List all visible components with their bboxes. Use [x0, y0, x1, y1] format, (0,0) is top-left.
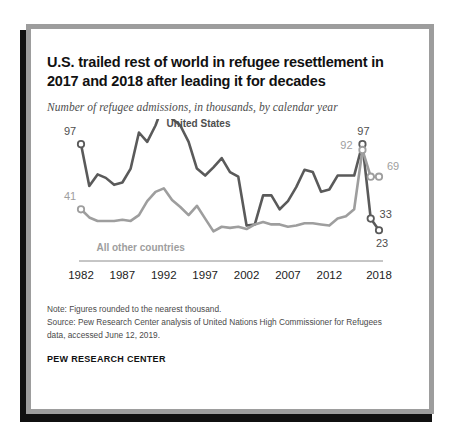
data-point-marker — [359, 146, 365, 152]
series-annotation-all-other-countries: All other countries — [96, 242, 185, 253]
footnote-note: Note: Figures rounded to the nearest tho… — [47, 303, 413, 316]
x-tick-label: 2002 — [234, 269, 260, 281]
data-point-marker — [78, 140, 84, 146]
chart-card-frame: U.S. trailed rest of world in refugee re… — [26, 24, 434, 414]
data-point-marker — [368, 173, 374, 179]
page-title: U.S. trailed rest of world in refugee re… — [47, 53, 413, 92]
x-tick-label: 1982 — [68, 269, 94, 281]
data-point-marker — [368, 215, 374, 221]
x-axis: 19821987199219972002200720122018 — [68, 261, 392, 281]
x-tick-label: 1987 — [110, 269, 136, 281]
chart-card: U.S. trailed rest of world in refugee re… — [31, 29, 429, 409]
footnote-source-line2: data, accessed June 12, 2019. — [47, 329, 413, 342]
brand-label: PEW RESEARCH CENTER — [47, 354, 413, 364]
data-value-label: 92 — [340, 139, 352, 151]
line-chart-svg: 19821987199219972002200720122018 United … — [47, 119, 423, 291]
footnotes: Note: Figures rounded to the nearest tho… — [47, 303, 413, 343]
chart-subtitle: Number of refugee admissions, in thousan… — [47, 101, 413, 113]
x-tick-label: 2007 — [275, 269, 301, 281]
data-value-label: 97 — [64, 125, 76, 137]
data-value-label: 97 — [357, 125, 369, 137]
series-annotation-united-states: United States — [167, 119, 231, 129]
x-tick-label: 1997 — [192, 269, 218, 281]
chart-plot-area: 19821987199219972002200720122018 United … — [47, 119, 423, 291]
data-point-marker — [376, 173, 382, 179]
data-point-marker — [376, 227, 382, 233]
x-tick-label: 2018 — [366, 269, 392, 281]
series-layer — [78, 119, 382, 233]
x-tick-label: 2012 — [317, 269, 343, 281]
data-value-label: 69 — [387, 159, 399, 171]
footnote-source-line1: Source: Pew Research Center analysis of … — [47, 316, 413, 329]
series-line-all-other-countries — [81, 150, 379, 231]
data-point-marker — [78, 206, 84, 212]
series-line-united-states — [81, 119, 379, 230]
data-value-label: 41 — [64, 190, 76, 202]
x-tick-label: 1992 — [151, 269, 177, 281]
data-value-label: 23 — [376, 237, 388, 249]
data-value-label: 33 — [380, 207, 392, 219]
